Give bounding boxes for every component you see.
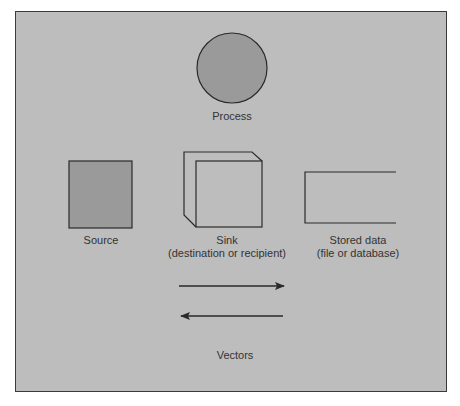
- process-circle-icon: [197, 33, 267, 103]
- sink-label: Sink (destination or recipient): [168, 234, 286, 260]
- sink-box-icon: [184, 152, 262, 227]
- vectors-label: Vectors: [217, 349, 254, 362]
- process-label: Process: [212, 110, 252, 123]
- stored-data-label: Stored data (file or database): [317, 234, 400, 260]
- stored-data-icon: [305, 172, 396, 223]
- stored-data-label-title: Stored data: [317, 234, 400, 247]
- sink-label-title: Sink: [168, 234, 286, 247]
- stored-data-label-subtitle: (file or database): [317, 247, 400, 260]
- source-square-icon: [69, 161, 132, 228]
- source-label: Source: [84, 234, 119, 247]
- sink-label-subtitle: (destination or recipient): [168, 247, 286, 260]
- diagram-shapes: [0, 0, 460, 406]
